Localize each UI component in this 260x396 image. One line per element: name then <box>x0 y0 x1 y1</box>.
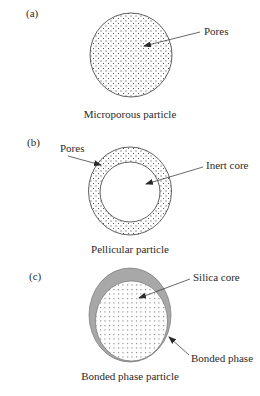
pores-arrow-b <box>68 156 101 165</box>
bonded-phase-arrow <box>169 337 189 355</box>
panel-b: (b) Pores Inert core Pellicular particle <box>27 136 249 255</box>
pores-label-a: Pores <box>204 25 228 37</box>
panel-b-label: (b) <box>27 136 40 149</box>
caption-pellicular: Pellicular particle <box>91 243 169 255</box>
caption-bonded-phase: Bonded phase particle <box>81 370 179 382</box>
particle-types-diagram: (a) Pores Microporous particle (b) Pores… <box>0 0 260 396</box>
bonded-phase-label: Bonded phase <box>191 352 253 364</box>
panel-a-label: (a) <box>26 7 39 20</box>
panel-a: (a) Pores Microporous particle <box>26 7 228 120</box>
caption-microporous: Microporous particle <box>84 108 177 120</box>
inert-core-circle <box>100 162 160 222</box>
panel-c-label: (c) <box>29 270 42 283</box>
panel-c: (c) Silica core Bonded phase Bonded phas… <box>29 268 253 382</box>
silica-core-label: Silica core <box>193 271 240 283</box>
microporous-particle-circle <box>90 13 172 97</box>
silica-core-dots <box>96 281 168 361</box>
inert-core-label: Inert core <box>206 159 249 171</box>
pores-label-b: Pores <box>60 142 84 154</box>
